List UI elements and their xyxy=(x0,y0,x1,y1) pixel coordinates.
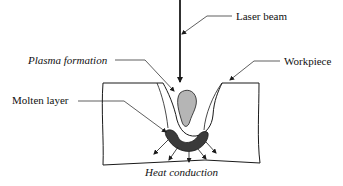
plasma-blob xyxy=(178,90,197,126)
diagram-svg: Laser beam Workpiece Plasma formation Mo… xyxy=(0,0,343,186)
label-plasma-formation: Plasma formation xyxy=(27,54,108,66)
label-workpiece: Workpiece xyxy=(284,55,331,67)
label-molten-layer: Molten layer xyxy=(12,94,69,106)
label-laser-beam: Laser beam xyxy=(236,10,287,22)
label-heat-conduction: Heat conduction xyxy=(144,166,219,178)
laser-welding-diagram: Laser beam Workpiece Plasma formation Mo… xyxy=(0,0,343,186)
molten-layer-shape xyxy=(165,130,208,152)
leader-lines xyxy=(78,16,280,132)
